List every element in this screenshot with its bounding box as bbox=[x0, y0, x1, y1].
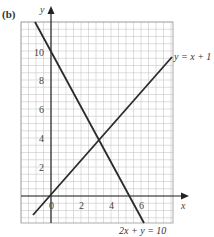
x-tick-4: 4 bbox=[109, 200, 114, 211]
y-tick-4: 4 bbox=[39, 133, 44, 144]
x-axis-arrow-icon bbox=[181, 193, 189, 200]
y-tick-10: 10 bbox=[34, 47, 44, 58]
y-axis-label: y bbox=[39, 4, 45, 15]
origin-label: 0 bbox=[49, 200, 54, 211]
graph: y x 10 8 6 4 2 0 2 4 6 y = x + 1 2x + y … bbox=[0, 0, 214, 237]
x-tick-2: 2 bbox=[79, 200, 84, 211]
x-axis-label: x bbox=[180, 200, 186, 211]
x-tick-6: 6 bbox=[139, 200, 144, 211]
y-tick-8: 8 bbox=[39, 75, 44, 86]
line-y-equals-x-plus-1 bbox=[33, 57, 172, 215]
y-tick-6: 6 bbox=[39, 104, 44, 115]
line2-equation-label: 2x + y = 10 bbox=[119, 225, 166, 236]
y-tick-2: 2 bbox=[39, 162, 44, 173]
line1-equation-label: y = x + 1 bbox=[173, 51, 211, 62]
y-axis-arrow-icon bbox=[48, 6, 55, 14]
